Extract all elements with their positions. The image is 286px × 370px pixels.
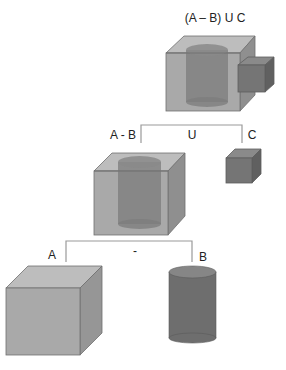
c-shape (226, 149, 261, 183)
b-shape (169, 266, 216, 343)
root-label: (A – B) U C (185, 11, 246, 25)
a-minus-b-label: A - B (110, 128, 136, 142)
a-shape (6, 266, 102, 355)
c-label: C (248, 128, 257, 142)
b-label: B (199, 250, 207, 264)
a-label: A (48, 248, 56, 262)
csg-tree-diagram: (A – B) U C A - B U C (0, 0, 286, 370)
union-operator-label: U (188, 128, 197, 142)
difference-operator-label: - (133, 244, 137, 258)
a-minus-b-shape (94, 153, 185, 235)
root-shape (166, 36, 274, 111)
difference-bracket (66, 241, 192, 262)
